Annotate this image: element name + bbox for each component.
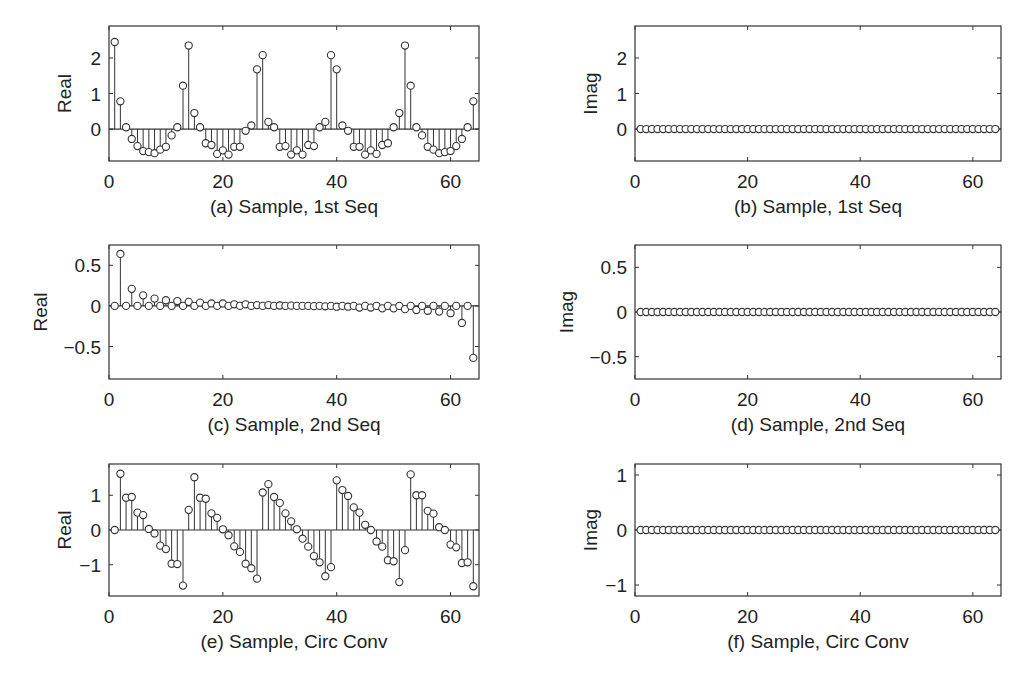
stem-marker [373,150,380,157]
stem-marker [179,582,186,589]
y-tick-label: 1 [616,465,627,486]
stem-marker [305,543,312,550]
stem-marker [407,82,414,89]
panel-caption: (c) Sample, 2nd Seq [207,414,380,435]
stem-marker [134,302,141,309]
stem-marker [453,142,460,149]
stem-plot-area: 0204060−101 [79,464,479,627]
x-tick-label: 20 [737,606,758,627]
stem-marker [396,109,403,116]
stem-marker [350,504,357,511]
stem-marker [356,143,363,150]
stem-marker [231,543,238,550]
stem-marker [299,151,306,158]
x-tick-label: 0 [104,171,115,192]
x-tick-label: 60 [440,606,461,627]
stem-marker [401,42,408,49]
stem-marker [282,142,289,149]
axes-frame [109,26,479,161]
axes-frame [635,26,1001,161]
stem-marker [453,544,460,551]
stem-marker [185,506,192,513]
stem-marker [333,477,340,484]
x-tick-label: 60 [962,606,983,627]
stem-marker [379,543,386,550]
stem-marker [122,124,129,131]
panel-d: 0204060−0.500.5 (d) Sample, 2nd Seq Imag [556,245,1001,435]
stem-marker [122,302,129,309]
x-tick-label: 0 [104,389,115,410]
y-axis-label: Imag [580,72,601,114]
stem-marker [356,509,363,516]
stem-marker [185,42,192,49]
stem-marker [196,124,203,131]
y-tick-label: 2 [90,48,101,69]
stem-marker [464,559,471,566]
panel-caption: (b) Sample, 1st Seq [734,196,902,217]
stem-marker [265,481,272,488]
x-tick-label: 20 [212,171,233,192]
x-tick-label: 0 [630,389,641,410]
stem-marker [259,489,266,496]
stem-marker [396,579,403,586]
x-tick-label: 60 [962,389,983,410]
panel-c: 0204060−0.500.5 (c) Sample, 2nd Seq Real [30,245,479,435]
stem-marker [299,535,306,542]
x-tick-label: 40 [850,389,871,410]
panel-a: 0204060012 (a) Sample, 1st Seq Real [54,26,479,217]
y-tick-label: 1 [90,84,101,105]
stem-marker [174,560,181,567]
stem-marker [248,122,255,129]
stem-marker [242,127,249,134]
stem-marker [111,38,118,45]
stem-marker [111,526,118,533]
stem-marker [168,132,175,139]
stem-plot-area: 0204060012 [90,26,479,192]
stem-marker [464,302,471,309]
stem-marker [316,559,323,566]
stem-marker [441,302,448,309]
stem-marker [140,511,147,518]
stem-marker [992,526,999,533]
stem-marker [344,127,351,134]
figure-six-stem-plots: 0204060012 (a) Sample, 1st Seq Real 0204… [0,0,1025,678]
stem-marker [117,470,124,477]
stem-marker [265,118,272,125]
stem-marker [111,302,118,309]
panel-e: 0204060−101 (e) Sample, Circ Conv Real [54,464,479,652]
stem-marker [128,135,135,142]
stem-marker [418,132,425,139]
stem-marker [362,521,369,528]
stem-marker [151,295,158,302]
x-tick-label: 20 [212,606,233,627]
y-tick-label: 0.5 [601,257,627,278]
stem-marker [413,124,420,131]
stem-marker [140,292,147,299]
x-tick-label: 40 [850,171,871,192]
panel-caption: (d) Sample, 2nd Seq [731,414,905,435]
stem-plot-area: 0204060012 [616,26,1001,192]
x-tick-label: 60 [440,389,461,410]
stem-marker [151,530,158,537]
stem-marker [128,285,135,292]
stem-marker [225,151,232,158]
x-tick-label: 60 [962,171,983,192]
stem-marker [316,124,323,131]
stem-marker [117,98,124,105]
y-axis-label: Imag [556,291,577,333]
stem-marker [327,564,334,571]
stem-marker [390,124,397,131]
stem-marker [202,495,209,502]
panel-caption: (a) Sample, 1st Seq [210,196,378,217]
stem-marker [310,552,317,559]
x-tick-label: 40 [326,606,347,627]
stem-marker [458,319,465,326]
y-tick-label: −0.5 [589,347,627,368]
stem-marker [162,546,169,553]
y-tick-label: 0 [616,520,627,541]
stem-marker [464,124,471,131]
stem-marker [174,124,181,131]
stem-marker [344,492,351,499]
stem-marker [430,510,437,517]
x-tick-label: 60 [440,171,461,192]
